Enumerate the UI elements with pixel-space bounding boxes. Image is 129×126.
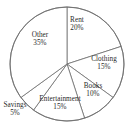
pie-label-value: 15% [91, 64, 117, 72]
pie-chart-figure: Rent20%Clothing15%Books10%Entertainment1… [0, 0, 129, 126]
pie-label-rent: Rent20% [70, 17, 84, 33]
pie-label-value: 10% [84, 91, 103, 99]
pie-label-entertainment: Entertainment15% [39, 96, 80, 112]
pie-label-clothing: Clothing15% [91, 56, 117, 72]
pie-label-savings: Savings5% [3, 102, 26, 118]
pie-label-books: Books10% [84, 83, 103, 99]
pie-label-other: Other35% [32, 32, 49, 48]
pie-label-value: 20% [70, 25, 84, 33]
pie-label-value: 15% [39, 104, 80, 112]
pie-label-value: 35% [32, 40, 49, 48]
pie-label-value: 5% [3, 110, 26, 118]
